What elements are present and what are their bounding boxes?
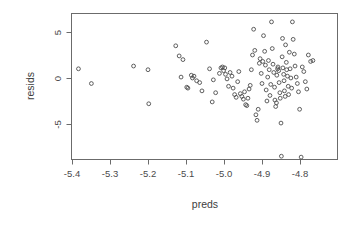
data-point bbox=[237, 70, 241, 74]
data-points-layer bbox=[77, 20, 315, 159]
data-point bbox=[284, 43, 288, 47]
data-point bbox=[292, 52, 296, 56]
data-point bbox=[205, 40, 209, 44]
plot-canvas: -5.4 -5.3 -5.2 -5.1 -5.0 -4.9 -4.8 5 0 -… bbox=[0, 0, 354, 226]
y-axis-tick-labels: 5 0 -5 bbox=[52, 30, 63, 129]
data-point bbox=[261, 60, 265, 64]
data-point bbox=[291, 20, 295, 24]
data-point bbox=[264, 63, 268, 67]
data-point bbox=[218, 72, 222, 76]
data-point bbox=[252, 27, 256, 31]
plot-frame bbox=[72, 14, 338, 160]
data-point bbox=[89, 82, 93, 86]
data-point bbox=[282, 79, 286, 83]
data-point bbox=[230, 74, 234, 78]
data-point bbox=[294, 75, 298, 79]
x-tick-label: -5.1 bbox=[178, 168, 194, 179]
data-point bbox=[263, 49, 267, 53]
data-point bbox=[208, 67, 212, 71]
data-point bbox=[255, 118, 259, 122]
data-point bbox=[147, 102, 151, 106]
data-point bbox=[291, 37, 295, 41]
x-tick-label: -5.4 bbox=[64, 168, 80, 179]
data-point bbox=[210, 100, 214, 104]
data-point bbox=[306, 53, 310, 57]
data-point bbox=[295, 82, 299, 86]
data-point bbox=[284, 60, 288, 64]
data-point bbox=[290, 86, 294, 90]
data-point bbox=[181, 58, 185, 62]
data-point bbox=[200, 89, 204, 93]
data-point bbox=[269, 83, 273, 87]
data-point bbox=[174, 44, 178, 48]
data-point bbox=[293, 64, 297, 68]
data-point bbox=[267, 68, 271, 72]
x-tick-label: -4.8 bbox=[292, 168, 308, 179]
data-point bbox=[259, 72, 263, 76]
data-point bbox=[243, 90, 247, 94]
data-point bbox=[177, 54, 181, 58]
data-point bbox=[225, 77, 229, 81]
data-point bbox=[287, 50, 291, 54]
y-tick-label: 0 bbox=[52, 76, 63, 81]
x-tick-label: -5.0 bbox=[216, 168, 232, 179]
y-axis-title: resids bbox=[24, 72, 36, 100]
data-point bbox=[283, 89, 287, 93]
data-point bbox=[256, 107, 260, 111]
data-point bbox=[247, 87, 251, 91]
data-point bbox=[260, 82, 264, 86]
x-axis-ticks bbox=[73, 160, 301, 165]
data-point bbox=[264, 88, 268, 92]
data-point bbox=[253, 49, 257, 53]
data-point bbox=[132, 64, 136, 68]
data-point bbox=[231, 86, 235, 90]
data-point bbox=[302, 70, 306, 74]
data-point bbox=[282, 72, 286, 76]
data-point bbox=[267, 59, 271, 63]
data-point bbox=[305, 87, 309, 91]
data-point bbox=[228, 71, 232, 75]
x-axis-title: preds bbox=[192, 198, 218, 210]
data-point bbox=[248, 83, 252, 87]
x-tick-label: -4.9 bbox=[254, 168, 270, 179]
data-point bbox=[198, 81, 202, 85]
y-tick-label: 5 bbox=[52, 30, 63, 35]
x-tick-label: -5.2 bbox=[140, 168, 156, 179]
data-point bbox=[251, 53, 255, 57]
data-point bbox=[298, 107, 302, 111]
data-point bbox=[254, 113, 258, 117]
data-point bbox=[268, 94, 272, 98]
data-point bbox=[287, 93, 291, 97]
data-point bbox=[280, 55, 284, 59]
data-point bbox=[246, 96, 250, 100]
data-point bbox=[262, 34, 266, 38]
data-point bbox=[77, 67, 81, 71]
data-point bbox=[279, 121, 283, 125]
data-point bbox=[279, 154, 283, 158]
data-point bbox=[236, 80, 240, 84]
data-point bbox=[277, 81, 281, 85]
data-point bbox=[275, 73, 279, 77]
data-point bbox=[273, 85, 277, 89]
data-point bbox=[300, 65, 304, 69]
y-axis-ticks bbox=[67, 33, 72, 125]
data-point bbox=[179, 75, 183, 79]
data-point bbox=[303, 80, 307, 84]
data-point bbox=[289, 76, 293, 80]
data-point bbox=[297, 90, 301, 94]
data-point bbox=[265, 99, 269, 103]
data-point bbox=[274, 105, 278, 109]
scatter-plot-figure: -5.4 -5.3 -5.2 -5.1 -5.0 -4.9 -4.8 5 0 -… bbox=[0, 0, 354, 226]
data-point bbox=[281, 66, 285, 70]
data-point bbox=[271, 62, 275, 66]
x-axis-tick-labels: -5.4 -5.3 -5.2 -5.1 -5.0 -4.9 -4.8 bbox=[64, 168, 308, 179]
data-point bbox=[278, 96, 282, 100]
data-point bbox=[281, 37, 285, 41]
data-point bbox=[211, 78, 215, 82]
data-point bbox=[146, 68, 150, 72]
x-tick-label: -5.3 bbox=[102, 168, 118, 179]
data-point bbox=[270, 20, 274, 24]
y-tick-label: -5 bbox=[52, 120, 63, 128]
data-point bbox=[227, 84, 231, 88]
data-point bbox=[214, 91, 218, 95]
